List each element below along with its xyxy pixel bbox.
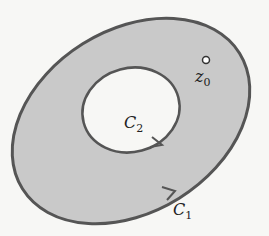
point-z0-marker: [203, 57, 210, 64]
annulus-diagram: z0 C2 C1: [0, 0, 269, 236]
contour-c1-label: C1: [173, 200, 192, 222]
